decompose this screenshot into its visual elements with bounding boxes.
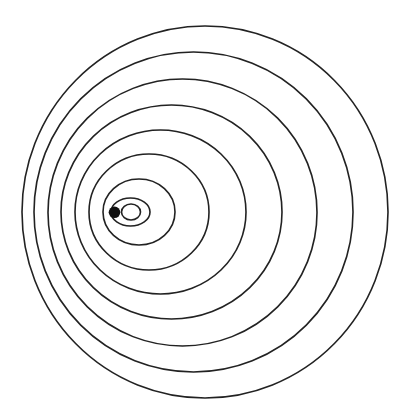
ring-2 [34, 52, 353, 372]
nested-circles-diagram [0, 0, 407, 419]
ring-6 [89, 154, 209, 270]
ring-4 [61, 105, 282, 319]
ring-1 [22, 26, 388, 398]
diagram-svg [0, 0, 407, 419]
ring-9 [122, 204, 141, 220]
focal-point [109, 207, 121, 219]
